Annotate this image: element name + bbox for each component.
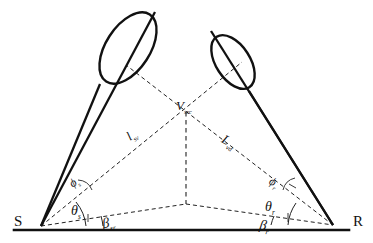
beta-sr-subscript: sr xyxy=(110,224,117,233)
beta-sr-base: β xyxy=(101,215,110,231)
theta-r-label: θr xyxy=(265,200,275,217)
theta-r-subscript: r xyxy=(272,209,275,217)
scattering-volume-base: V xyxy=(176,98,184,113)
geometry-canvas xyxy=(0,0,373,243)
receiver-label: R xyxy=(353,214,363,229)
phi-r-tick xyxy=(289,184,296,188)
scattering-geometry-diagram: S R Vsrc lsv Lvd θs βsr ϕs θr βr ϕr xyxy=(0,0,373,243)
right-cone-base-ellipse xyxy=(202,28,263,97)
scattering-volume-subscript: src xyxy=(184,108,192,115)
left-cone-base-ellipse xyxy=(88,2,168,93)
theta-r-arc xyxy=(288,203,296,225)
theta-s-subscript: s xyxy=(78,213,81,221)
source-label: S xyxy=(14,214,22,229)
theta-s-base: θ xyxy=(71,203,78,218)
source-axis-dashed xyxy=(41,62,242,226)
beta-r-arc xyxy=(271,216,274,225)
beta-sr-label: βsr xyxy=(101,215,116,234)
scattering-volume-label: Vsrc xyxy=(176,99,192,115)
theta-r-base: θ xyxy=(265,199,272,214)
right-cone-edge-lower xyxy=(249,91,333,225)
left-cone-edge-upper xyxy=(41,12,155,226)
theta-s-label: θs xyxy=(71,204,81,221)
